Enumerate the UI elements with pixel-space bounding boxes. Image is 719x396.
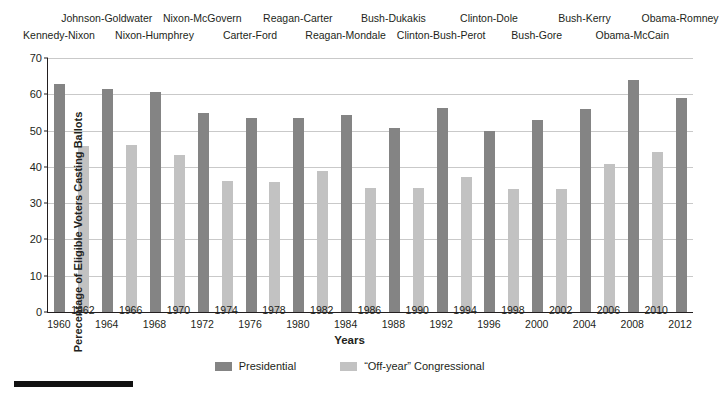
x-tick-label-1998: 1998	[501, 304, 524, 316]
y-tick-label-10: 10	[16, 270, 42, 281]
x-axis-title: Years	[0, 334, 699, 346]
y-tick-label-0: 0	[16, 307, 42, 318]
election-label-carter-ford: Carter-Ford	[223, 28, 277, 42]
election-label-nixon-mcgovern: Nixon-McGovern	[163, 11, 242, 25]
bar-1986	[365, 188, 376, 312]
y-tick-mark-10	[44, 275, 48, 276]
election-label-reagan-carter: Reagan-Carter	[263, 11, 332, 25]
x-tick-label-2010: 2010	[644, 304, 667, 316]
plot-area: 010203040506070 Perecentage of Eligible …	[47, 58, 693, 313]
y-tick-mark-50	[44, 130, 48, 131]
y-tick-label-20: 20	[16, 234, 42, 245]
election-label-clinton-bush-perot: Clinton-Bush-Perot	[397, 28, 486, 42]
x-tick-label-1966: 1966	[119, 304, 142, 316]
bar-1964	[102, 89, 113, 312]
x-tick-label-1976: 1976	[238, 318, 261, 330]
bar-1992	[437, 108, 448, 312]
y-tick-label-30: 30	[16, 198, 42, 209]
bar-1976	[246, 118, 257, 312]
election-label-nixon-humphrey: Nixon-Humphrey	[115, 28, 194, 42]
x-tick-label-1980: 1980	[286, 318, 309, 330]
x-tick-label-2004: 2004	[573, 318, 596, 330]
x-tick-label-1982: 1982	[310, 304, 333, 316]
chart-legend: Presidential“Off-year” Congressional	[0, 360, 699, 372]
x-tick-label-1994: 1994	[453, 304, 476, 316]
x-tick-label-2000: 2000	[525, 318, 548, 330]
bar-1982	[317, 171, 328, 312]
legend-item-offyear[interactable]: “Off-year” Congressional	[340, 360, 484, 372]
y-tick-label-50: 50	[16, 125, 42, 136]
legend-label-pres: Presidential	[239, 360, 296, 372]
gridline-40	[48, 167, 693, 168]
x-tick-label-2002: 2002	[549, 304, 572, 316]
y-tick-mark-30	[44, 203, 48, 204]
x-tick-label-2012: 2012	[668, 318, 691, 330]
election-label-bush-gore: Bush-Gore	[511, 28, 562, 42]
bar-1996	[484, 131, 495, 312]
legend-label-offyear: “Off-year” Congressional	[364, 360, 484, 372]
x-tick-label-1988: 1988	[382, 318, 405, 330]
y-tick-mark-0	[44, 312, 48, 313]
election-label-bush-dukakis: Bush-Dukakis	[361, 11, 426, 25]
bar-1984	[341, 115, 352, 312]
bar-1968	[150, 92, 161, 312]
x-tick-label-1968: 1968	[143, 318, 166, 330]
x-tick-label-2006: 2006	[597, 304, 620, 316]
bar-2012	[676, 98, 687, 312]
election-label-reagan-mondale: Reagan-Mondale	[305, 28, 386, 42]
bar-1978	[269, 182, 280, 312]
bar-2000	[532, 120, 543, 312]
bar-2008	[628, 80, 639, 312]
bar-1970	[174, 155, 185, 312]
x-tick-label-1984: 1984	[334, 318, 357, 330]
gridline-60	[48, 94, 693, 95]
bar-1998	[508, 189, 519, 312]
bar-1980	[293, 118, 304, 312]
legend-swatch-offyear	[340, 362, 357, 371]
x-tick-label-1978: 1978	[262, 304, 285, 316]
bar-1966	[126, 145, 137, 312]
election-label-johnson-goldwater: Johnson-Goldwater	[61, 11, 152, 25]
bar-1994	[461, 177, 472, 312]
x-tick-label-1990: 1990	[406, 304, 429, 316]
x-tick-label-1992: 1992	[429, 318, 452, 330]
y-tick-label-40: 40	[16, 161, 42, 172]
y-axis-title: Perecentage of Eligible Voters Casting B…	[72, 107, 84, 357]
bar-1990	[413, 188, 424, 312]
y-tick-mark-60	[44, 94, 48, 95]
legend-swatch-pres	[215, 362, 232, 371]
bar-2010	[652, 152, 663, 312]
election-label-clinton-dole: Clinton-Dole	[460, 11, 518, 25]
election-label-row-top: Johnson-GoldwaterNixon-McGovernReagan-Ca…	[0, 11, 699, 25]
election-label-obama-mccain: Obama-McCain	[596, 28, 670, 42]
gridline-50	[48, 131, 693, 132]
x-tick-label-1962: 1962	[71, 304, 94, 316]
bar-2004	[580, 109, 591, 312]
bar-2006	[604, 164, 615, 312]
bar-1974	[222, 181, 233, 312]
bar-1988	[389, 128, 400, 312]
legend-item-pres[interactable]: Presidential	[215, 360, 296, 372]
x-tick-label-1996: 1996	[477, 318, 500, 330]
y-tick-mark-70	[44, 58, 48, 59]
x-tick-label-1986: 1986	[358, 304, 381, 316]
election-label-kennedy-nixon: Kennedy-Nixon	[23, 28, 95, 42]
election-label-bush-kerry: Bush-Kerry	[558, 11, 611, 25]
x-tick-label-1964: 1964	[95, 318, 118, 330]
bar-1972	[198, 113, 209, 312]
election-label-obama-romney: Obama-Romney	[642, 11, 719, 25]
bar-1960	[54, 84, 65, 312]
x-tick-label-1970: 1970	[167, 304, 190, 316]
x-tick-label-2008: 2008	[621, 318, 644, 330]
x-tick-label-1960: 1960	[47, 318, 70, 330]
gridline-70	[48, 58, 693, 59]
y-tick-label-60: 60	[16, 89, 42, 100]
election-label-row-bottom: Kennedy-NixonNixon-HumphreyCarter-FordRe…	[0, 28, 699, 42]
bar-2002	[556, 189, 567, 312]
footer-rule	[14, 381, 133, 387]
y-tick-mark-40	[44, 166, 48, 167]
y-tick-label-70: 70	[16, 53, 42, 64]
x-tick-label-1972: 1972	[191, 318, 214, 330]
y-tick-mark-20	[44, 239, 48, 240]
